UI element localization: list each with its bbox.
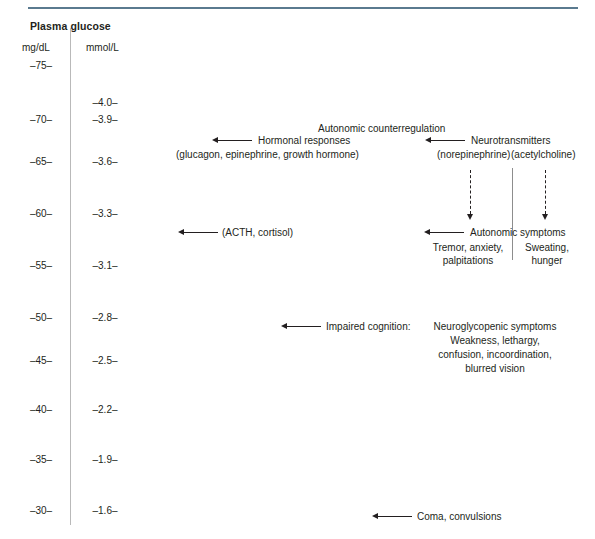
neuroglycopenic-line1: Weakness, lethargy, (400, 334, 590, 347)
tick-mmol-7: –2.2– (80, 404, 130, 416)
autonomic-symptoms-cholinergic-line1: Sweating, (516, 241, 578, 254)
tick-mmol-1: –3.9– (80, 114, 130, 126)
neuroglycopenic-line2: confusion, incoordination, (400, 348, 590, 361)
tick-mmol-0: –4.0– (80, 97, 130, 109)
acth-cortisol-label: (ACTH, cortisol) (222, 226, 293, 239)
arrow-hormonal-responses (212, 136, 252, 145)
tick-mmol-4: –3.1– (80, 260, 130, 272)
autonomic-symptoms-adrenergic-line2: palpitations (427, 254, 509, 267)
tick-mgdl-9: –30– (18, 505, 64, 517)
autonomic-symptoms-adrenergic-line1: Tremor, anxiety, (427, 241, 509, 254)
neurotransmitter-detail-acetylcholine: (acetylcholine) (511, 148, 575, 161)
column-header-mmol: mmol/L (86, 42, 119, 53)
neuroglycopenic-line3: blurred vision (400, 362, 590, 375)
tick-mmol-8: –1.9– (80, 454, 130, 466)
tick-mmol-3: –3.3– (80, 208, 130, 220)
autonomic-symptoms-label: Autonomic symptoms (470, 226, 566, 239)
glucose-axis-line (70, 28, 71, 525)
tick-mgdl-8: –35– (18, 454, 64, 466)
neurotransmitters-label: Neurotransmitters (471, 134, 550, 147)
tick-mmol-5: –2.8– (80, 312, 130, 324)
neurotransmitter-detail-norepinephrine: (norepinephrine) (437, 148, 510, 161)
tick-mgdl-0: –75– (18, 60, 64, 72)
arrow-neurotransmitters (425, 136, 465, 145)
top-divider-rule (28, 7, 578, 9)
impaired-cognition-label: Impaired cognition: (326, 320, 411, 333)
coma-convulsions-label: Coma, convulsions (417, 510, 501, 523)
tick-mgdl-5: –50– (18, 312, 64, 324)
hormonal-responses-detail: (glucagon, epinephrine, growth hormone) (176, 148, 359, 161)
autonomic-branch-divider (512, 168, 513, 260)
tick-mmol-2: –3.6– (80, 156, 130, 168)
arrow-impaired-cognition (281, 322, 321, 331)
tick-mgdl-6: –45– (18, 355, 64, 367)
tick-mmol-6: –2.5– (80, 355, 130, 367)
dashed-arrow-sympathetic (466, 170, 475, 220)
tick-mgdl-4: –55– (18, 260, 64, 272)
figure-canvas: Plasma glucose mg/dL mmol/L –75––70––65–… (0, 0, 595, 539)
arrow-autonomic-symptoms (424, 228, 464, 237)
tick-mgdl-1: –70– (18, 114, 64, 126)
arrow-coma-convulsions (372, 512, 412, 521)
column-header-mgdl: mg/dL (22, 42, 50, 53)
tick-mgdl-7: –40– (18, 404, 64, 416)
autonomic-symptoms-cholinergic-line2: hunger (516, 254, 578, 267)
neuroglycopenic-heading: Neuroglycopenic symptoms (400, 320, 590, 333)
tick-mgdl-2: –65– (18, 156, 64, 168)
tick-mgdl-3: –60– (18, 208, 64, 220)
hormonal-responses-label: Hormonal responses (258, 134, 350, 147)
tick-mmol-9: –1.6– (80, 505, 130, 517)
dashed-arrow-cholinergic (541, 170, 550, 220)
arrow-acth-cortisol (178, 228, 218, 237)
